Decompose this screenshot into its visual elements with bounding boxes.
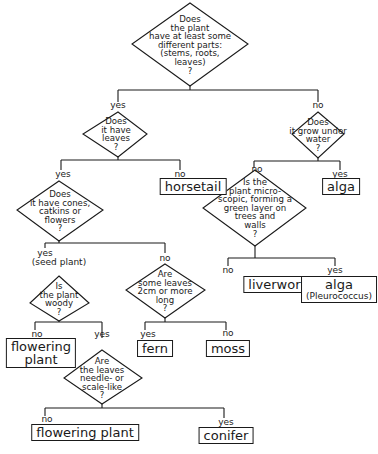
question-different-parts: Does the plant have at least some differ… [149,15,231,75]
branch-label-no: no [159,254,170,263]
result-alga: alga [322,178,360,195]
result-alga-pleurococcus: alga (Pleurococcus) [301,276,377,303]
branch-label-no: no [251,165,262,174]
branch-label-yes: yes [55,170,71,179]
branch-label-yes: yes [94,330,110,339]
question-microscopic-green-layer: Is the plant micro- scopic, forming a gr… [218,178,292,238]
branch-label-no: no [222,329,233,338]
question-woody: Is the plant woody ? [40,282,79,316]
result-fern: fern [137,340,173,357]
result-moss: moss [206,340,250,357]
result-alga-note: (Pleurococcus) [306,291,372,301]
result-conifer: conifer [199,427,254,444]
branch-label-yes: yes [140,330,156,339]
branch-label-no: no [312,101,323,110]
question-has-leaves: Does it have leaves ? [101,117,131,151]
branch-label-yes: yes [218,418,234,427]
branch-label-no: no [41,415,52,424]
branch-label-no: no [222,266,233,275]
result-alga-label: alga [325,277,353,292]
branch-label-seed-plant: (seed plant) [32,258,86,267]
question-grows-underwater: Does it grow under water ? [289,118,346,152]
branch-label-yes: yes [110,101,126,110]
result-flowering-plant-2: flowering plant [31,424,139,441]
result-horsetail: horsetail [160,178,227,195]
question-needle-scale-leaves: Are the leaves needle- or scale-like ? [80,357,125,400]
question-leaves-2cm: Are some leaves 2cm or more long ? [137,270,192,313]
result-flowering-plant: flowering plant [6,338,76,368]
question-cones-catkins-flowers: Does it have cones, catkins or flowers ? [30,190,90,233]
branch-label-yes: yes [327,266,343,275]
